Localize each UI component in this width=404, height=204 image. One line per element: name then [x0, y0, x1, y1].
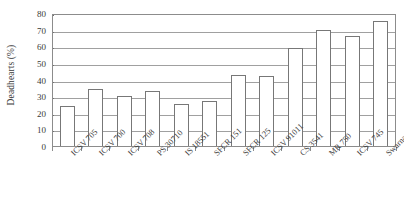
y-axis-tick-label: 10 [37, 126, 46, 135]
bar-slot [338, 15, 367, 146]
bar-slot [139, 15, 168, 146]
x-axis-category-label: SFCR 151 [213, 152, 219, 158]
y-axis-tick-label: 20 [37, 109, 46, 118]
x-axis-category-label: PS 30710 [156, 152, 162, 158]
bar-series [53, 15, 395, 146]
x-axis-category-label: ICSV 705 [70, 152, 76, 158]
y-axis-tick-label: 80 [37, 10, 46, 19]
y-axis-tick-label: 60 [37, 43, 46, 52]
x-axis-category-label: CS 3541 [299, 152, 305, 158]
y-axis-tick-label: 50 [37, 59, 46, 68]
y-axis-title-container: Deadhearts (%) [0, 0, 22, 150]
x-axis-category-label: Swarna [385, 152, 391, 158]
x-axis-category-label: ICSV 700 [98, 152, 104, 158]
bar [345, 36, 360, 146]
bar-chart-figure: Deadhearts (%) 01020304050607080 ICSV 70… [0, 0, 404, 204]
plot-area [52, 14, 396, 147]
x-axis-category-label: IS 18551 [184, 152, 190, 158]
y-axis-tick-label: 40 [37, 76, 46, 85]
bar-slot [196, 15, 225, 146]
bar-slot [224, 15, 253, 146]
y-axis-tick-label: 0 [42, 143, 47, 152]
bar-slot [167, 15, 196, 146]
x-axis-category-label: ICSV 91011 [270, 152, 276, 158]
bar [373, 21, 388, 146]
bar [60, 106, 75, 146]
x-axis-category-label: ICSV 708 [127, 152, 133, 158]
bar-slot [367, 15, 396, 146]
x-axis-category-label: ICSV 745 [356, 152, 362, 158]
bar-slot [110, 15, 139, 146]
x-axis-category-label: SFCR 125 [242, 152, 248, 158]
y-axis-tick-label: 70 [37, 26, 46, 35]
bar-slot [310, 15, 339, 146]
y-axis-title: Deadhearts (%) [6, 45, 16, 106]
y-axis-tick-labels: 01020304050607080 [22, 14, 48, 147]
y-axis-tick-label: 30 [37, 93, 46, 102]
x-axis-category-label: MR 750 [328, 152, 334, 158]
bar [316, 30, 331, 146]
bar-slot [53, 15, 82, 146]
x-axis-category-labels: ICSV 705ICSV 700ICSV 708PS 30710IS 18551… [52, 150, 396, 204]
bar-slot [82, 15, 111, 146]
